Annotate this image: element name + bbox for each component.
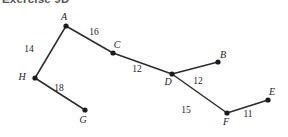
edge-length-label-hg: 18 [54,83,64,93]
vertex-label-c: C [114,39,121,50]
geometry-diagram: ABCDEFGH 14161212151118 [0,0,288,137]
vertex-dot-g [82,107,87,112]
vertex-label-b: B [220,49,226,60]
vertex-dot-a [63,23,68,28]
vertex-label-a: A [60,11,68,22]
edges-group [35,26,268,113]
edge-length-label-ha: 14 [24,44,34,54]
edge-c-d [113,53,172,74]
edge-length-label-db: 12 [193,76,203,86]
vertex-label-f: F [222,116,230,127]
edge-labels-group: 14161212151118 [24,27,253,119]
figure-page: Exercise 9D ABCDEFGH 14161212151118 [0,0,288,137]
vertex-label-h: H [17,71,26,82]
vertex-dot-e [265,97,270,102]
vertex-dot-h [32,75,37,80]
vertex-dot-b [215,59,220,64]
edge-length-label-df: 15 [181,105,191,115]
vertex-label-d: D [163,76,172,87]
edge-h-a [35,26,66,78]
edge-length-label-cd: 12 [132,64,142,74]
vertex-dot-f [224,110,229,115]
vertex-label-g: G [79,114,86,125]
edge-d-b [172,62,218,74]
vertex-dots-group [32,23,270,115]
vertex-dot-c [110,50,115,55]
edge-length-label-ac: 16 [89,27,99,37]
vertex-label-e: E [268,86,275,97]
edge-length-label-fe: 11 [243,109,252,119]
